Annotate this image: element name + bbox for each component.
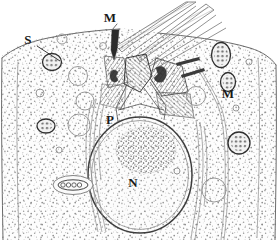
label-p: P <box>106 112 114 127</box>
label-m-right: M <box>222 86 235 101</box>
rootlet-lower-right <box>156 92 194 118</box>
label-m-top: M <box>104 10 117 25</box>
perinuclear-dense-body <box>116 127 176 173</box>
cell-diagram-svg: S M P N M <box>0 0 278 240</box>
mitochondrion <box>228 132 250 154</box>
label-n: N <box>128 175 138 190</box>
figure-container: S M P N M <box>0 0 278 240</box>
mitochondrion <box>37 119 55 133</box>
mitochondrion-cristae <box>53 176 93 195</box>
label-s: S <box>24 32 32 47</box>
mitochondrion <box>212 43 231 68</box>
